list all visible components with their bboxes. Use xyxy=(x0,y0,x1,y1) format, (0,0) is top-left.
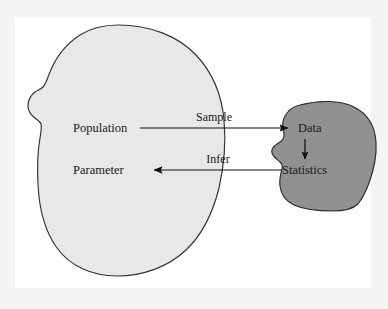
population-blob-group[interactable] xyxy=(28,25,225,276)
diagram-canvas: Sample Infer Population Parameter Data S… xyxy=(0,0,388,309)
population-label: Population xyxy=(73,121,128,135)
sample-blob-group[interactable] xyxy=(272,101,376,211)
figure-root: Sample Infer Population Parameter Data S… xyxy=(0,0,388,309)
infer-arrow-label: Infer xyxy=(206,152,229,166)
parameter-label: Parameter xyxy=(73,163,125,177)
population-blob-shape[interactable] xyxy=(28,25,225,276)
statistics-label: Statistics xyxy=(282,163,327,177)
sample-arrow-label: Sample xyxy=(196,110,232,124)
sample-blob-shape[interactable] xyxy=(272,101,376,211)
data-label: Data xyxy=(298,121,322,135)
